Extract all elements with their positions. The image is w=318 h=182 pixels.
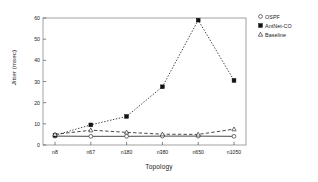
x-tick-label: n380 xyxy=(157,149,169,155)
legend-item-antnet-co[interactable]: AntNet-CO xyxy=(256,22,316,29)
data-point-marker xyxy=(125,134,129,138)
y-tick-label: 50 xyxy=(34,36,40,42)
open-circle-icon xyxy=(256,13,265,20)
data-point-marker xyxy=(232,79,236,83)
legend-item-baseline[interactable]: Baseline xyxy=(256,31,316,38)
x-tick-label: n1050 xyxy=(227,149,242,155)
y-axis-title: Jitter (msec) xyxy=(10,33,17,103)
chart-legend: OSPFAntNet-COBaseline xyxy=(256,13,316,41)
y-tick-label: 10 xyxy=(34,121,40,127)
x-tick-label: n180 xyxy=(121,149,133,155)
plot-border xyxy=(43,18,246,145)
data-point-marker xyxy=(232,134,236,138)
data-point-marker xyxy=(196,18,200,22)
data-point-marker xyxy=(161,85,165,89)
legend-item-label: OSPF xyxy=(265,14,280,20)
y-tick-label: 60 xyxy=(34,15,40,21)
legend-item-label: AntNet-CO xyxy=(265,23,292,29)
data-point-marker xyxy=(89,134,93,138)
open-triangle-icon xyxy=(256,31,265,38)
y-tick-label: 20 xyxy=(34,100,40,106)
legend-item-label: Baseline xyxy=(265,32,286,38)
y-tick-label: 30 xyxy=(34,79,40,85)
legend-item-ospf[interactable]: OSPF xyxy=(256,13,316,20)
data-point-marker xyxy=(89,123,93,127)
chart-figure: 0102030405060 n8n67n180n380n650n1050 Top… xyxy=(0,0,318,182)
x-axis-title: Topology xyxy=(0,163,318,170)
data-point-marker xyxy=(125,115,129,119)
y-tick-label: 0 xyxy=(37,142,40,148)
x-tick-label: n650 xyxy=(192,149,204,155)
x-tick-label: n8 xyxy=(52,149,58,155)
y-tick-label: 40 xyxy=(34,57,40,63)
filled-square-icon xyxy=(256,22,265,29)
x-tick-label: n67 xyxy=(86,149,95,155)
